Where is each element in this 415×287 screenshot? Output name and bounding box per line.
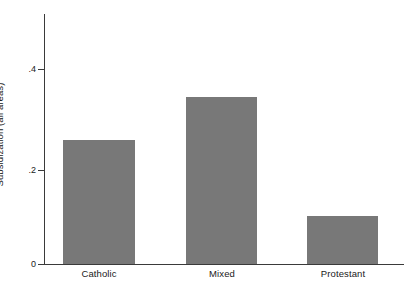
y-tick-mark-1 — [38, 170, 44, 171]
y-axis-title: Subsidization (all areas) — [0, 0, 9, 278]
bar-mixed — [186, 97, 257, 264]
x-axis-line — [44, 264, 404, 265]
bar-catholic — [63, 140, 135, 264]
bar-chart: Subsidization (all areas) 0 .2 .4 Cathol… — [0, 0, 415, 287]
y-tick-label-1: .2 — [22, 165, 36, 175]
bar-protestant — [307, 216, 378, 264]
y-tick-label-2: .4 — [22, 64, 36, 74]
y-tick-label-0: 0 — [22, 259, 36, 269]
y-axis-line — [44, 14, 45, 265]
x-tick-label-protestant: Protestant — [303, 268, 383, 279]
y-tick-mark-0 — [38, 264, 44, 265]
x-tick-label-catholic: Catholic — [59, 268, 139, 279]
x-tick-label-mixed: Mixed — [182, 268, 262, 279]
y-tick-mark-2 — [38, 69, 44, 70]
